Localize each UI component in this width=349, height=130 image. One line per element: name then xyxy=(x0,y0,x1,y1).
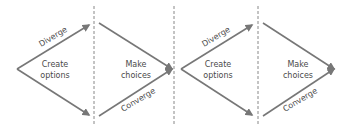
create-options-line1: Create xyxy=(205,60,232,69)
create-options-line2: options xyxy=(203,71,232,80)
make-choices-line2: choices xyxy=(121,71,151,80)
make-choices-line2: choices xyxy=(283,71,313,80)
diverge-label: Diverge xyxy=(200,25,231,49)
create-options-line2: options xyxy=(40,71,69,80)
create-options-line1: Create xyxy=(42,60,69,69)
make-choices-line1: Make xyxy=(287,60,308,69)
double-diamond-diagram: Diverge Create options Make choices Conv… xyxy=(0,0,349,130)
make-choices-line1: Make xyxy=(125,60,146,69)
diverge-label: Diverge xyxy=(37,25,68,49)
